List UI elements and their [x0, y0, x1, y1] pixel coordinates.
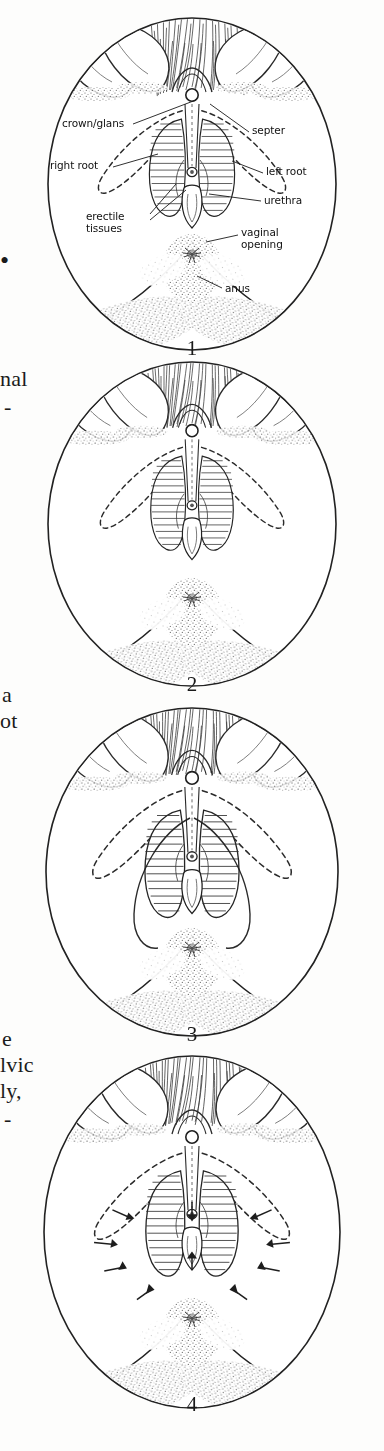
figure-1-drawing: [0, 8, 384, 360]
callout-crown-glans: crown/glans: [62, 118, 124, 130]
callout-right-root: right root: [50, 160, 98, 172]
figure-panel-3: 3: [0, 698, 384, 1046]
figure-4-drawing: [0, 1046, 384, 1436]
figure-panel-2: 2: [0, 352, 384, 696]
callout-septer: septer: [252, 125, 285, 137]
figure-page: • nal - a ot e lvic ly, -: [0, 0, 384, 1451]
callout-anus: anus: [225, 283, 250, 295]
callout-urethra: urethra: [264, 195, 302, 207]
callout-erectile-tissues: erectile tissues: [86, 211, 124, 234]
callout-vaginal-opening: vaginal opening: [241, 227, 283, 250]
figure-panel-4: 4: [0, 1046, 384, 1436]
figure-number: 2: [172, 672, 212, 697]
figure-panel-1: 1 crown/glans septer right root left roo…: [0, 8, 384, 360]
figure-2-drawing: [0, 352, 384, 696]
figure-number: 3: [172, 1022, 212, 1047]
figure-3-drawing: [0, 698, 384, 1046]
figure-number: 4: [172, 1392, 212, 1417]
callout-left-root: left root: [266, 166, 307, 178]
